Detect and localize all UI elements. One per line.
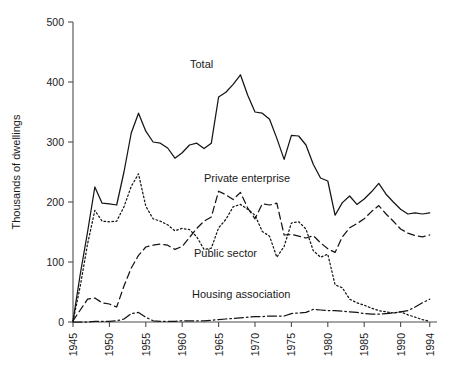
y-tick-label: 0 <box>58 316 64 328</box>
annotation-housing-association: Housing association <box>192 288 290 300</box>
y-axis-title-text: Thousands of dwellings <box>10 114 22 229</box>
y-tick-label: 500 <box>46 16 64 28</box>
x-tick-label: 1994 <box>424 333 436 357</box>
x-tick-label: 1960 <box>176 333 188 357</box>
x-tick-label: 1980 <box>322 333 334 357</box>
y-axis-title: Thousands of dwellings <box>10 114 22 229</box>
x-tick-label: 1950 <box>103 333 115 357</box>
y-tick-label: 400 <box>46 76 64 88</box>
chart-container: 0100200300400500 19451950195519601965197… <box>0 0 467 374</box>
series-line-total <box>73 75 430 321</box>
x-tick-label: 1970 <box>249 333 261 357</box>
y-tick-label: 200 <box>46 196 64 208</box>
x-axis: 1945195019551960196519701975198019851990… <box>67 322 437 356</box>
x-tick-label: 1965 <box>213 333 225 357</box>
x-tick-label: 1985 <box>358 333 370 357</box>
annotation-private-enterprise: Private enterprise <box>204 172 290 184</box>
annotation-public-sector: Public sector <box>194 247 257 259</box>
y-tick-label: 300 <box>46 136 64 148</box>
y-tick-label: 100 <box>46 256 64 268</box>
x-tick-label: 1945 <box>67 333 79 357</box>
x-tick-label: 1975 <box>285 333 297 357</box>
x-tick-label: 1955 <box>140 333 152 357</box>
annotation-total: Total <box>190 58 213 70</box>
x-tick-label: 1990 <box>395 333 407 357</box>
series-lines <box>73 75 430 322</box>
y-axis: 0100200300400500 <box>46 16 73 328</box>
series-line-housing-association <box>73 299 430 322</box>
line-chart: 0100200300400500 19451950195519601965197… <box>0 0 467 374</box>
series-annotations: TotalPrivate enterprisePublic sectorHous… <box>190 58 290 300</box>
